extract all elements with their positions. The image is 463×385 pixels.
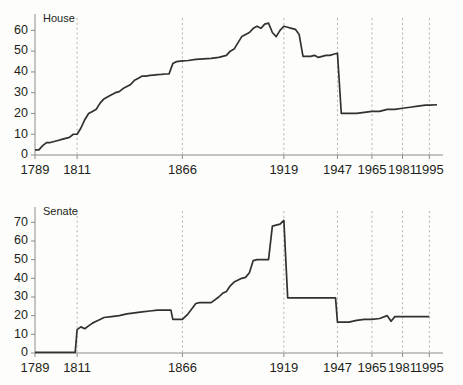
- y-tick-label-40: 40: [14, 64, 28, 78]
- plot-title: House: [43, 12, 75, 24]
- y-tick-label-20: 20: [14, 106, 28, 120]
- x-tick-label-1919: 1919: [269, 162, 298, 177]
- x-tick-label-1995: 1995: [415, 162, 444, 177]
- chart-panel-house: 0102030405060178918111866191919471965198…: [0, 0, 463, 193]
- house-line-chart: 0102030405060178918111866191919471965198…: [0, 0, 463, 193]
- x-tick-label-1789: 1789: [21, 162, 50, 177]
- x-tick-label-1811: 1811: [63, 360, 91, 375]
- y-tick-label-70: 70: [14, 215, 28, 229]
- chart-panel-senate: 0102030405060701789181118661919194719651…: [0, 193, 463, 385]
- x-tick-label-1866: 1866: [168, 162, 197, 177]
- x-tick-label-1981: 1981: [388, 360, 417, 375]
- y-tick-label-0: 0: [21, 345, 28, 359]
- series-line-house: [35, 23, 437, 150]
- x-tick-label-1981: 1981: [388, 162, 417, 177]
- y-tick-label-60: 60: [14, 233, 28, 247]
- plot-title: Senate: [43, 205, 78, 217]
- x-tick-label-1811: 1811: [63, 162, 91, 177]
- y-tick-label-40: 40: [14, 271, 28, 285]
- y-tick-label-30: 30: [14, 85, 28, 99]
- y-tick-label-0: 0: [21, 147, 28, 161]
- y-tick-label-30: 30: [14, 289, 28, 303]
- x-tick-label-1965: 1965: [357, 162, 386, 177]
- senate-line-chart: 0102030405060701789181118661919194719651…: [0, 193, 463, 385]
- y-tick-label-60: 60: [14, 23, 28, 37]
- y-tick-label-50: 50: [14, 252, 28, 266]
- y-tick-label-10: 10: [14, 127, 28, 141]
- x-tick-label-1965: 1965: [357, 360, 386, 375]
- x-tick-label-1919: 1919: [269, 360, 298, 375]
- series-line-senate: [35, 220, 429, 352]
- x-tick-label-1995: 1995: [415, 360, 444, 375]
- x-tick-label-1866: 1866: [168, 360, 197, 375]
- y-tick-label-10: 10: [14, 327, 28, 341]
- x-tick-label-1947: 1947: [323, 360, 352, 375]
- x-tick-label-1789: 1789: [21, 360, 50, 375]
- y-tick-label-50: 50: [14, 43, 28, 57]
- figure-congress-committee-counts: 0102030405060178918111866191919471965198…: [0, 0, 463, 385]
- x-tick-label-1947: 1947: [323, 162, 352, 177]
- y-tick-label-20: 20: [14, 308, 28, 322]
